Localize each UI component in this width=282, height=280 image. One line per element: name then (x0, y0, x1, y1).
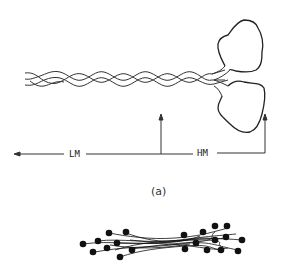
head-dot (182, 246, 189, 253)
head-dot (181, 232, 188, 239)
label-hm: HM (197, 148, 208, 158)
arrow-up-icon (159, 114, 163, 120)
label-lm: LM (69, 149, 80, 159)
head-dot (212, 223, 219, 230)
arrow-up-icon (263, 114, 267, 120)
head-dot (212, 237, 219, 244)
head-dot (235, 248, 242, 255)
head-dot (117, 254, 124, 261)
head-lower (218, 81, 265, 132)
head-dot (218, 247, 225, 254)
dimension-lines (14, 114, 267, 156)
neck (212, 66, 230, 96)
head-dot (80, 241, 87, 248)
head-dot (123, 229, 130, 236)
head-dot (90, 249, 97, 256)
head-upper (218, 20, 263, 72)
head-dot (204, 247, 211, 254)
head-dot (223, 234, 230, 241)
head-dot (104, 245, 111, 252)
head-dot (114, 240, 121, 247)
figure-caption: (a) (151, 185, 166, 198)
head-dot (193, 240, 200, 247)
head-dot (239, 237, 246, 244)
head-dot (95, 238, 102, 245)
filament (80, 223, 246, 261)
rod-tail (25, 70, 228, 86)
arrow-left-icon (14, 152, 20, 156)
myosin-diagram: LM HM (a) (0, 0, 282, 280)
head-dot (200, 229, 207, 236)
head-dot (224, 223, 231, 230)
head-dot (129, 247, 136, 254)
head-dot (106, 230, 113, 237)
